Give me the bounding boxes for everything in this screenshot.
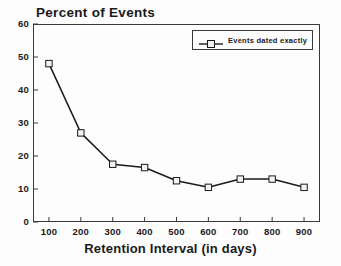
y-tick-label: 60 bbox=[3, 18, 29, 29]
y-tick-label: 0 bbox=[3, 216, 29, 227]
y-tick-label: 50 bbox=[3, 51, 29, 62]
x-axis-title: Retention Interval (in days) bbox=[0, 241, 341, 256]
tick-marks bbox=[33, 24, 304, 222]
y-tick-label: 10 bbox=[3, 183, 29, 194]
y-tick-label: 30 bbox=[3, 117, 29, 128]
figure-canvas: Percent of Events 0102030405060 10020030… bbox=[0, 0, 341, 266]
chart-legend: Events dated exactly bbox=[192, 30, 313, 50]
series-line-events-dated-exactly bbox=[46, 60, 308, 190]
y-tick-label: 20 bbox=[3, 150, 29, 161]
y-tick-label: 40 bbox=[3, 84, 29, 95]
x-tick-label: 900 bbox=[284, 226, 324, 237]
legend-entry-label: Events dated exactly bbox=[228, 36, 307, 45]
legend-square-marker-icon bbox=[199, 35, 223, 45]
